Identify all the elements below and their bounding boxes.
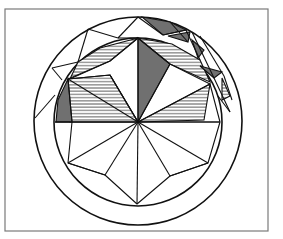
upper-left-band bbox=[70, 38, 138, 79]
facet-diagram bbox=[0, 0, 283, 239]
